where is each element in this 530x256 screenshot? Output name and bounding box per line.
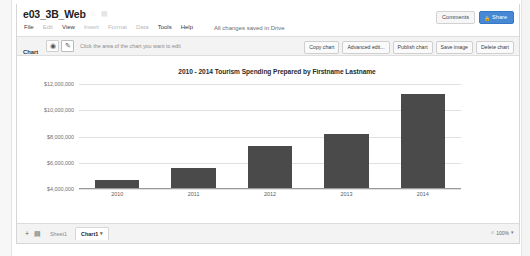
folder-icon[interactable]: ▤: [101, 10, 108, 17]
chart-bar[interactable]: [401, 94, 445, 189]
menu-item-view[interactable]: View: [61, 23, 76, 32]
chart-bar-slot: [308, 84, 384, 188]
chart-edit-hint: Click the area of the chart you want to …: [80, 43, 181, 49]
sheet-tab-chart1-label: Chart1: [81, 230, 98, 238]
save-status: All changes saved in Drive: [214, 25, 285, 31]
document-title[interactable]: e03_3B_Web: [23, 8, 86, 20]
chart-editor-toolbar: Chart ◉ ✎ Click the area of the chart yo…: [17, 36, 519, 56]
chart-y-tick-label: $10,000,000: [44, 107, 74, 113]
all-sheets-menu-icon[interactable]: ▤: [32, 229, 42, 239]
chart-canvas[interactable]: 2010 - 2014 Tourism Spending Prepared by…: [17, 56, 519, 222]
chart-bar-slot: [79, 84, 155, 188]
sheet-tab-chart1[interactable]: Chart1 ▾: [75, 227, 109, 240]
chart-y-tick-label: $4,000,000: [47, 186, 74, 192]
chart-x-axis: [79, 188, 461, 189]
lock-icon: 🔒: [484, 15, 490, 21]
chart-x-tick-label: 2013: [308, 191, 384, 197]
eye-icon[interactable]: ◉: [46, 40, 59, 52]
menu-item-tools[interactable]: Tools: [157, 23, 173, 32]
menu-item-edit[interactable]: Edit: [42, 23, 54, 32]
chart-x-tick-label: 2011: [155, 191, 231, 197]
share-button-label: Share: [492, 14, 507, 21]
magnifier-icon: ⌕: [491, 229, 494, 236]
chart-toolbar-right-group: Copy chart Advanced edit... Publish char…: [304, 41, 514, 54]
header-actions: Comments 🔒 Share: [436, 11, 514, 24]
chart-x-tick-label: 2012: [232, 191, 308, 197]
add-sheet-button[interactable]: +: [22, 229, 32, 239]
app-header: e03_3B_Web ☆ ▤ File Edit View Insert For…: [17, 4, 519, 36]
chart-x-tick-label: 2014: [385, 191, 461, 197]
advanced-edit-button[interactable]: Advanced edit...: [342, 41, 389, 54]
menu-item-file[interactable]: File: [23, 23, 35, 32]
menu-item-format[interactable]: Format: [107, 23, 128, 32]
chart-title: 2010 - 2014 Tourism Spending Prepared by…: [17, 68, 519, 75]
pencil-icon[interactable]: ✎: [61, 40, 74, 52]
screenshot-root: firstname.lastname@gmail.com ▾ e03_3B_We…: [0, 0, 530, 256]
chart-y-tick-label: $6,000,000: [47, 160, 74, 166]
share-button[interactable]: 🔒 Share: [479, 11, 514, 24]
chart-toolbar-left-group: ◉ ✎ Click the area of the chart you want…: [46, 40, 181, 52]
chart-plot-area: $12,000,000$10,000,000$8,000,000$6,000,0…: [79, 84, 461, 189]
star-icon[interactable]: ☆: [90, 10, 97, 17]
chart-gridline: $4,000,000: [79, 189, 461, 190]
chart-bar[interactable]: [95, 180, 139, 188]
menu-item-data[interactable]: Data: [135, 23, 150, 32]
spreadsheet-app-window: e03_3B_Web ☆ ▤ File Edit View Insert For…: [16, 4, 520, 244]
delete-chart-button[interactable]: Delete chart: [476, 41, 514, 54]
sheet-tab-sheet1[interactable]: Sheet1: [45, 228, 72, 240]
save-image-button[interactable]: Save image: [436, 41, 473, 54]
chart-y-tick-label: $8,000,000: [47, 134, 74, 140]
chart-bar-slot: [155, 84, 231, 188]
sheet-tab-bar: + ▤ Sheet1 Chart1 ▾ ⌕ 100% ▾: [17, 223, 519, 243]
browser-frame: firstname.lastname@gmail.com ▾ e03_3B_We…: [0, 0, 530, 256]
chart-bar-slot: [232, 84, 308, 188]
chevron-down-icon: ▾: [100, 230, 103, 238]
page-scrollbar[interactable]: [521, 0, 530, 256]
comments-button[interactable]: Comments: [436, 11, 475, 24]
chart-toolbar-label: Chart: [23, 49, 38, 55]
chart-bar[interactable]: [324, 134, 368, 188]
zoom-level-value: 100%: [496, 230, 509, 236]
zoom-control[interactable]: ⌕ 100% ▾: [491, 229, 514, 236]
chart-bar[interactable]: [171, 168, 215, 188]
chart-bars: [79, 84, 461, 188]
chart-bar[interactable]: [248, 146, 292, 188]
left-gutter: [0, 0, 12, 256]
publish-chart-button[interactable]: Publish chart: [393, 41, 433, 54]
chart-x-tick-labels: 20102011201220132014: [79, 191, 461, 197]
copy-chart-button[interactable]: Copy chart: [304, 41, 339, 54]
chevron-down-icon: ▾: [511, 230, 514, 235]
menu-item-insert[interactable]: Insert: [83, 23, 100, 32]
menu-item-help[interactable]: Help: [180, 23, 194, 32]
chart-bar-slot: [385, 84, 461, 188]
chart-x-tick-label: 2010: [79, 191, 155, 197]
chart-y-tick-label: $12,000,000: [44, 81, 74, 87]
